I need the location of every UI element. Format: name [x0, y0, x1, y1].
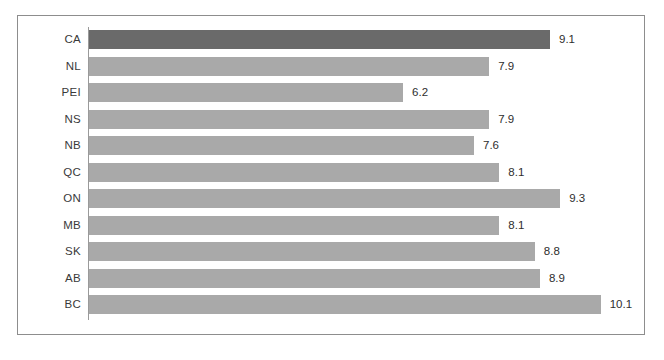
bar-value-label: 6.2 — [412, 83, 428, 102]
bar-row: CA9.1 — [89, 30, 638, 49]
bar-value-label: 7.6 — [483, 136, 499, 155]
category-label: BC — [64, 295, 81, 314]
bar-value-label: 8.1 — [508, 216, 524, 235]
chart-frame: CA9.1NL7.9PEI6.2NS7.9NB7.6QC8.1ON9.3MB8.… — [17, 15, 645, 335]
category-label: NB — [64, 136, 81, 155]
bar-row: AB8.9 — [89, 269, 638, 288]
bar-qc — [89, 163, 499, 182]
bar-row: BC10.1 — [89, 295, 638, 314]
bar-value-label: 8.8 — [544, 242, 560, 261]
category-label: MB — [63, 216, 81, 235]
category-label: ON — [63, 189, 81, 208]
bar-nl — [89, 57, 489, 76]
category-label: QC — [63, 163, 81, 182]
bar-row: NL7.9 — [89, 57, 638, 76]
category-label: NL — [66, 57, 81, 76]
category-label: SK — [65, 242, 81, 261]
bar-row: NS7.9 — [89, 110, 638, 129]
category-label: AB — [65, 269, 81, 288]
bar-row: MB8.1 — [89, 216, 638, 235]
bar-ca — [89, 30, 550, 49]
bar-mb — [89, 216, 499, 235]
bar-ab — [89, 269, 540, 288]
bar-row: SK8.8 — [89, 242, 638, 261]
bar-row: ON9.3 — [89, 189, 638, 208]
bar-on — [89, 189, 560, 208]
bar-ns — [89, 110, 489, 129]
bar-value-label: 7.9 — [498, 110, 514, 129]
bar-series: CA9.1NL7.9PEI6.2NS7.9NB7.6QC8.1ON9.3MB8.… — [89, 30, 638, 314]
bar-pei — [89, 83, 403, 102]
bar-sk — [89, 242, 535, 261]
bar-row: NB7.6 — [89, 136, 638, 155]
bar-value-label: 9.1 — [559, 30, 575, 49]
category-label: CA — [64, 30, 81, 49]
bar-value-label: 8.1 — [508, 163, 524, 182]
bar-row: QC8.1 — [89, 163, 638, 182]
bar-value-label: 10.1 — [610, 295, 632, 314]
plot-area: CA9.1NL7.9PEI6.2NS7.9NB7.6QC8.1ON9.3MB8.… — [88, 27, 638, 320]
bar-value-label: 7.9 — [498, 57, 514, 76]
category-label: NS — [64, 110, 81, 129]
bar-bc — [89, 295, 601, 314]
bar-row: PEI6.2 — [89, 83, 638, 102]
category-label: PEI — [62, 83, 81, 102]
bar-nb — [89, 136, 474, 155]
bar-value-label: 8.9 — [549, 269, 565, 288]
bar-value-label: 9.3 — [569, 189, 585, 208]
